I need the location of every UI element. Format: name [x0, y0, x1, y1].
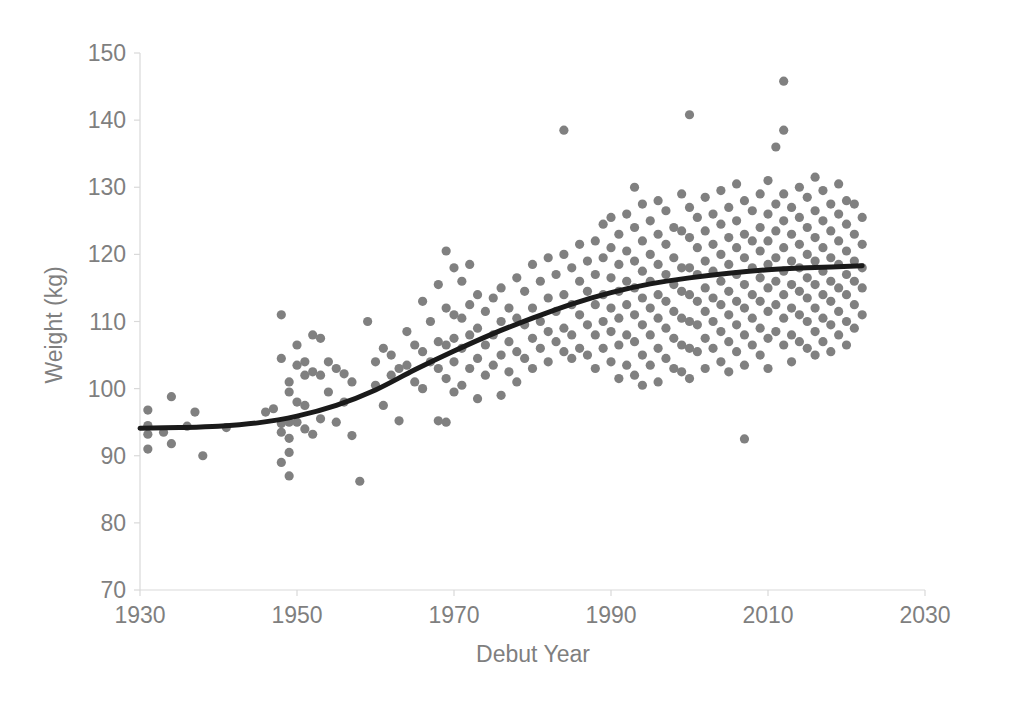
scatter-dot	[544, 253, 553, 262]
scatter-dot	[473, 324, 482, 333]
scatter-dot	[190, 408, 199, 417]
scatter-dot	[638, 199, 647, 208]
scatter-dot	[826, 253, 835, 262]
scatter-dot	[803, 273, 812, 282]
scatter-dot	[795, 287, 804, 296]
scatter-dot	[693, 243, 702, 252]
scatter-dot	[599, 220, 608, 229]
scatter-dot	[693, 320, 702, 329]
scatter-dot	[748, 236, 757, 245]
scatter-dot	[614, 340, 623, 349]
scatter-dot	[340, 369, 349, 378]
scatter-dot	[654, 196, 663, 205]
scatter-dot	[465, 364, 474, 373]
scatter-dot	[285, 377, 294, 386]
scatter-dot	[811, 173, 820, 182]
scatter-dot	[536, 344, 545, 353]
scatter-dot	[779, 189, 788, 198]
scatter-dot	[520, 354, 529, 363]
scatter-dot	[740, 230, 749, 239]
scatter-dot	[677, 314, 686, 323]
scatter-dot	[559, 126, 568, 135]
scatter-dot	[724, 310, 733, 319]
scatter-dot	[669, 334, 678, 343]
scatter-dot	[434, 416, 443, 425]
y-tick-label: 130	[88, 174, 126, 200]
scatter-dot	[167, 392, 176, 401]
scatter-dot	[457, 277, 466, 286]
scatter-dot	[630, 223, 639, 232]
scatter-dot	[575, 240, 584, 249]
scatter-dot	[826, 277, 835, 286]
scatter-dot	[394, 416, 403, 425]
y-tick-label: 110	[89, 309, 126, 335]
scatter-dot	[308, 430, 317, 439]
scatter-dot	[701, 364, 710, 373]
scatter-dot	[528, 334, 537, 343]
scatter-dot	[292, 340, 301, 349]
scatter-dot	[858, 283, 867, 292]
scatter-dot	[677, 367, 686, 376]
scatter-dot	[858, 310, 867, 319]
scatter-dot	[669, 253, 678, 262]
scatter-dot	[434, 337, 443, 346]
scatter-dot	[654, 260, 663, 269]
scatter-dot	[677, 226, 686, 235]
scatter-dot	[795, 337, 804, 346]
scatter-dot	[497, 391, 506, 400]
scatter-dot	[473, 354, 482, 363]
scatter-dot	[826, 297, 835, 306]
scatter-dot	[724, 367, 733, 376]
scatter-dot	[277, 458, 286, 467]
scatter-dot	[716, 277, 725, 286]
scatter-dot	[300, 401, 309, 410]
scatter-dot	[324, 387, 333, 396]
scatter-dot	[708, 240, 717, 249]
scatter-dot	[716, 186, 725, 195]
scatter-dot	[465, 330, 474, 339]
y-axis-title: Weight (kg)	[41, 266, 67, 383]
scatter-dot	[457, 381, 466, 390]
scatter-dot	[795, 310, 804, 319]
scatter-dot	[449, 263, 458, 272]
scatter-dot	[756, 324, 765, 333]
scatter-dot	[811, 303, 820, 312]
scatter-dot	[850, 300, 859, 309]
x-axis-title: Debut Year	[476, 641, 590, 667]
scatter-dot	[504, 303, 513, 312]
scatter-dot	[332, 418, 341, 427]
scatter-dot	[842, 340, 851, 349]
scatter-dot	[575, 277, 584, 286]
scatter-dot	[716, 357, 725, 366]
scatter-dot	[724, 203, 733, 212]
scatter-dot	[716, 250, 725, 259]
scatter-dot	[465, 300, 474, 309]
scatter-dot	[701, 193, 710, 202]
scatter-dot	[763, 210, 772, 219]
scatter-dot	[394, 364, 403, 373]
scatter-dot	[473, 394, 482, 403]
scatter-dot	[811, 206, 820, 215]
scatter-dot	[285, 448, 294, 457]
scatter-dot	[646, 303, 655, 312]
scatter-dot	[685, 233, 694, 242]
scatter-dot	[834, 179, 843, 188]
scatter-dot	[779, 290, 788, 299]
scatter-dot	[701, 226, 710, 235]
scatter-dot	[834, 307, 843, 316]
scatter-dot	[551, 270, 560, 279]
scatter-dot	[740, 434, 749, 443]
scatter-dot	[685, 203, 694, 212]
scatter-dot	[285, 387, 294, 396]
scatter-dot	[763, 236, 772, 245]
scatter-dot	[858, 240, 867, 249]
scatter-dot	[308, 330, 317, 339]
scatter-dot	[599, 317, 608, 326]
scatter-dot	[803, 317, 812, 326]
scatter-dot	[497, 317, 506, 326]
scatter-dot	[740, 303, 749, 312]
scatter-dot	[732, 320, 741, 329]
scatter-dot	[575, 344, 584, 353]
scatter-dot	[497, 283, 506, 292]
scatter-dot	[685, 263, 694, 272]
